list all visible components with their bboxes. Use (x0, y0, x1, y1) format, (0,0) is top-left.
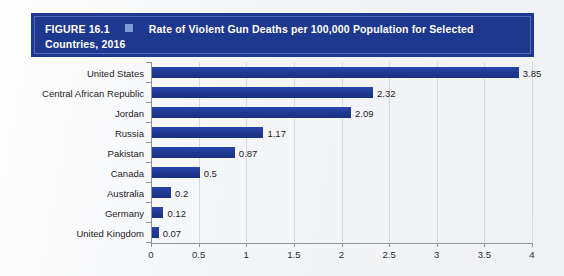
x-tick-label-2.5: 2.5 (383, 249, 396, 260)
y-tick (146, 62, 151, 63)
gridline-3 (437, 62, 438, 243)
x-tick-label-0: 0 (148, 249, 153, 260)
bar-value-label: 0.12 (167, 208, 186, 219)
bar-value-label: 2.09 (355, 108, 374, 119)
bar (152, 87, 373, 98)
bar-value-label: 0.2 (175, 188, 188, 199)
category-label: Jordan (115, 108, 144, 119)
x-tick-label-3.5: 3.5 (478, 249, 491, 260)
gridline-3.5 (484, 62, 485, 243)
category-label: Russia (115, 128, 144, 139)
gridline-4 (532, 62, 533, 243)
x-tick-label-0.5: 0.5 (192, 249, 205, 260)
y-tick (146, 162, 151, 163)
bar-value-label: 3.85 (523, 68, 542, 79)
x-tick-3.5 (484, 243, 485, 247)
category-label: Australia (107, 188, 144, 199)
bar (152, 167, 200, 178)
y-tick (146, 202, 151, 203)
x-tick-1 (246, 243, 247, 247)
x-tick-label-4: 4 (529, 249, 534, 260)
y-tick (146, 182, 151, 183)
y-tick (146, 82, 151, 83)
y-tick (146, 222, 151, 223)
x-tick-label-2: 2 (339, 249, 344, 260)
x-tick-1.5 (294, 243, 295, 247)
x-tick-label-1: 1 (244, 249, 249, 260)
y-tick (146, 242, 151, 243)
x-tick-0 (151, 243, 152, 247)
bar-value-label: 0.5 (204, 168, 217, 179)
bar-value-label: 2.32 (377, 88, 396, 99)
category-label: United Kingdom (76, 228, 144, 239)
y-tick (146, 142, 151, 143)
y-tick (146, 122, 151, 123)
x-tick-3 (437, 243, 438, 247)
bar (152, 127, 263, 138)
x-tick-4 (532, 243, 533, 247)
bar (152, 227, 159, 238)
bar (152, 107, 351, 118)
x-tick-label-3: 3 (434, 249, 439, 260)
x-tick-2 (342, 243, 343, 247)
x-tick-2.5 (389, 243, 390, 247)
bar (152, 187, 171, 198)
category-axis-labels: United StatesCentral African RepublicJor… (0, 0, 144, 276)
bar-value-label: 1.17 (267, 128, 286, 139)
bar (152, 207, 163, 218)
x-tick-0.5 (199, 243, 200, 247)
category-label: Germany (105, 208, 144, 219)
x-tick-label-1.5: 1.5 (287, 249, 300, 260)
bar (152, 147, 235, 158)
category-label: Central African Republic (42, 88, 144, 99)
category-label: Canada (111, 168, 144, 179)
bar (152, 67, 519, 78)
bar-chart: United StatesCentral African RepublicJor… (0, 0, 564, 276)
category-label: Pakistan (108, 148, 144, 159)
y-tick (146, 102, 151, 103)
bar-value-label: 0.07 (163, 228, 182, 239)
category-label: United States (87, 68, 144, 79)
bar-value-label: 0.87 (239, 148, 258, 159)
